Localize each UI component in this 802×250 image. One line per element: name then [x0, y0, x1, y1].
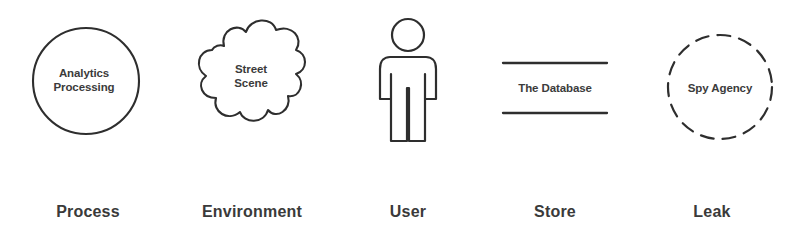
store-inner-label: The Database — [488, 81, 622, 95]
legend-item-leak: Spy Agency Leak — [622, 0, 802, 250]
legend-caption-user: User — [328, 203, 488, 221]
legend-caption-process: Process — [0, 203, 176, 221]
legend-item-environment: Street Scene Environment — [176, 0, 328, 250]
store-shape-area: The Database — [488, 0, 622, 175]
legend-caption-store: Store — [488, 203, 622, 221]
dfd-legend: Analytics Processing Process Street Scen… — [0, 0, 802, 250]
leak-inner-label: Spy Agency — [630, 81, 802, 95]
environment-inner-label: Street Scene — [175, 62, 327, 90]
legend-item-process: Analytics Processing Process — [0, 0, 176, 250]
legend-item-user: User — [328, 0, 488, 250]
process-inner-label: Analytics Processing — [0, 66, 172, 94]
legend-caption-environment: Environment — [176, 203, 328, 221]
legend-caption-leak: Leak — [622, 203, 802, 221]
process-shape-area: Analytics Processing — [0, 0, 176, 175]
person-figure-icon — [328, 0, 488, 175]
user-shape-area — [328, 0, 488, 175]
leak-shape-area: Spy Agency — [622, 0, 802, 175]
environment-shape-area: Street Scene — [176, 0, 328, 175]
legend-item-store: The Database Store — [488, 0, 622, 250]
